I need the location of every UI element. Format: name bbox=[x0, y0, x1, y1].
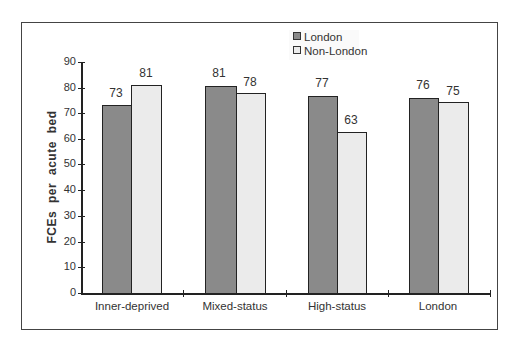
y-tick-label: 10 bbox=[52, 260, 76, 272]
y-axis bbox=[81, 62, 83, 294]
legend-swatch-non-london bbox=[293, 46, 301, 54]
x-category-label: Mixed-status bbox=[185, 300, 285, 312]
bar-nonlondon-inner-deprived bbox=[131, 85, 162, 294]
value-label: 63 bbox=[331, 113, 371, 127]
value-label: 73 bbox=[96, 86, 136, 100]
x-tick bbox=[286, 290, 287, 297]
y-axis-title: FCEs per acute bed bbox=[45, 97, 59, 257]
legend-item-london: London bbox=[293, 31, 342, 43]
x-category-label: London bbox=[388, 300, 488, 312]
legend: London Non-London bbox=[289, 30, 359, 60]
y-tick bbox=[78, 62, 85, 63]
y-tick bbox=[78, 267, 85, 268]
y-tick-label: 50 bbox=[52, 157, 76, 169]
y-tick-label: 40 bbox=[52, 183, 76, 195]
legend-label: Non-London bbox=[304, 45, 367, 57]
y-tick bbox=[78, 113, 85, 114]
x-tick bbox=[490, 290, 491, 297]
y-tick-label: 70 bbox=[52, 106, 76, 118]
value-label: 81 bbox=[126, 66, 166, 80]
y-tick bbox=[78, 242, 85, 243]
value-label: 75 bbox=[433, 84, 473, 98]
y-tick bbox=[78, 139, 85, 140]
y-tick bbox=[78, 216, 85, 217]
legend-swatch-london bbox=[293, 32, 301, 40]
y-tick bbox=[78, 88, 85, 89]
bar-nonlondon-london bbox=[438, 102, 469, 294]
y-tick-label: 80 bbox=[52, 81, 76, 93]
x-tick bbox=[388, 290, 389, 297]
bar-nonlondon-high-status bbox=[337, 132, 367, 294]
x-category-label: High-status bbox=[287, 300, 387, 312]
bar-nonlondon-mixed-status bbox=[236, 93, 266, 294]
bar-london-inner-deprived bbox=[102, 105, 132, 294]
bar-london-london bbox=[409, 98, 439, 294]
x-tick bbox=[183, 290, 184, 297]
value-label: 78 bbox=[230, 75, 270, 89]
value-label: 77 bbox=[302, 76, 342, 90]
y-tick-label: 30 bbox=[52, 209, 76, 221]
y-tick-label: 20 bbox=[52, 235, 76, 247]
y-tick-label: 90 bbox=[52, 55, 76, 67]
legend-label: London bbox=[304, 31, 342, 43]
y-tick-label: 60 bbox=[52, 132, 76, 144]
y-tick-label: 0 bbox=[52, 286, 76, 298]
y-tick bbox=[78, 164, 85, 165]
legend-item-non-london: Non-London bbox=[293, 45, 367, 57]
x-category-label: Inner-deprived bbox=[82, 300, 182, 312]
bar-london-mixed-status bbox=[205, 86, 237, 294]
y-tick bbox=[78, 190, 85, 191]
